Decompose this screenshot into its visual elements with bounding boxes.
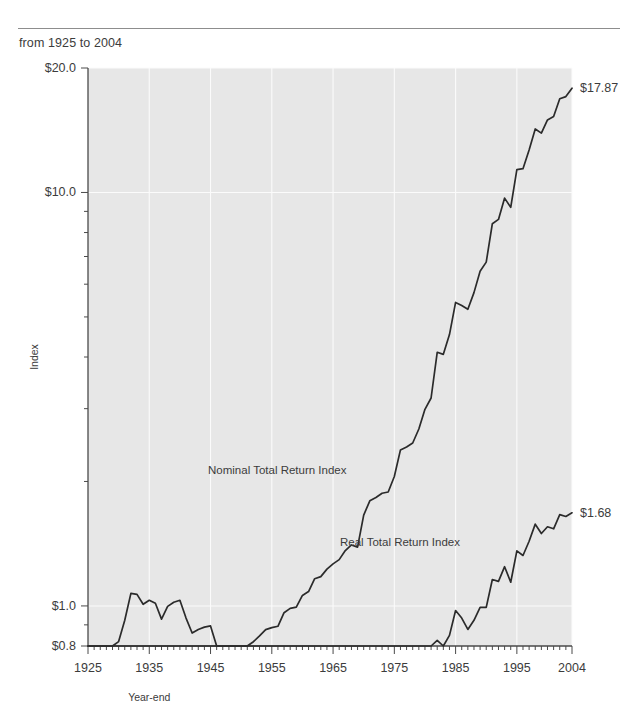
chart-figure: from 1925 to 2004 $20.0$10.0$1.0$0.81925… bbox=[0, 0, 638, 726]
y-tick-label: $10.0 bbox=[45, 185, 76, 199]
y-tick-label: $0.8 bbox=[52, 639, 76, 653]
x-tick-label: 1955 bbox=[258, 661, 286, 675]
x-tick-label: 1995 bbox=[503, 661, 531, 675]
nominal-end-value: $17.87 bbox=[580, 81, 618, 95]
y-tick-label: $20.0 bbox=[45, 61, 76, 75]
real-end-value: $1.68 bbox=[580, 506, 611, 520]
x-tick-label: 1935 bbox=[135, 661, 163, 675]
y-axis-title: Index bbox=[28, 343, 40, 369]
series-label-nominal: Nominal Total Return Index bbox=[208, 464, 347, 476]
x-tick-label: 1965 bbox=[319, 661, 347, 675]
plot-background bbox=[88, 68, 572, 646]
x-tick-label: 2004 bbox=[558, 661, 586, 675]
line-chart: $20.0$10.0$1.0$0.81925193519451955196519… bbox=[0, 0, 638, 726]
x-tick-label: 1945 bbox=[197, 661, 225, 675]
series-label-real: Real Total Return Index bbox=[340, 536, 460, 548]
x-tick-label: 1985 bbox=[442, 661, 470, 675]
x-tick-label: 1975 bbox=[380, 661, 408, 675]
y-tick-label: $1.0 bbox=[52, 599, 76, 613]
x-axis-title: Year-end bbox=[128, 691, 170, 703]
x-tick-label: 1925 bbox=[74, 661, 102, 675]
